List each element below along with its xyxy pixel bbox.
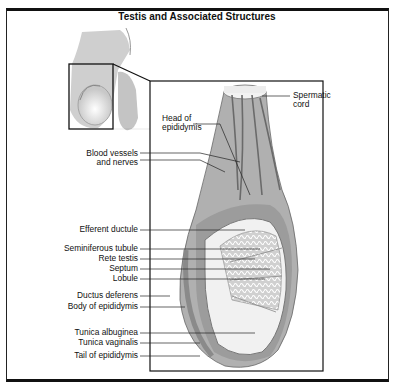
label-tunica-vaginalis: Tunica vaginalis: [30, 338, 138, 347]
thumbnail-anatomy: [69, 28, 150, 130]
label-rete-testis: Rete testis: [40, 254, 138, 263]
label-ductus-deferens: Ductus deferens: [40, 291, 138, 300]
label-spermatic-cord: Spermaticcord: [293, 91, 331, 109]
label-efferent-ductule: Efferent ductule: [40, 225, 138, 234]
label-lobule: Lobule: [40, 274, 138, 283]
label-septum: Septum: [40, 264, 138, 273]
label-seminiferous-tubule: Seminiferous tubule: [30, 244, 138, 253]
label-head-of-epididymis: Head ofepididymis: [162, 114, 202, 132]
label-tunica-albuginea: Tunica albuginea: [30, 328, 138, 337]
label-blood-vessels: Blood vesselsand nerves: [70, 149, 138, 167]
label-body-of-epididymis: Body of epididymis: [30, 302, 138, 311]
label-tail-of-epididymis: Tail of epididymis: [30, 351, 138, 360]
